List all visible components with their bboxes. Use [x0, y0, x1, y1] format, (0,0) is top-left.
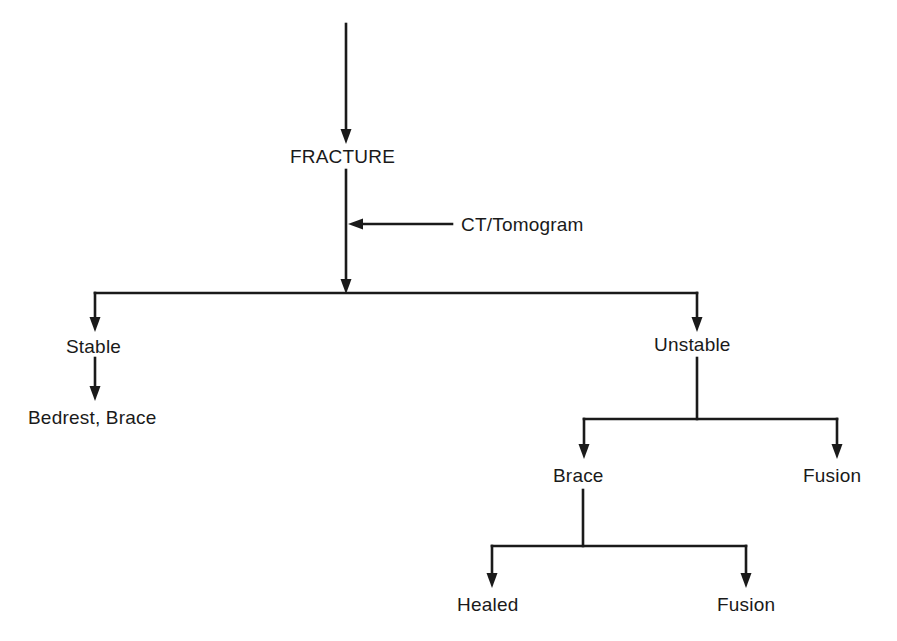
node-unstable: Unstable: [654, 334, 731, 356]
flowchart-connectors: [0, 0, 897, 641]
node-fusion-1: Fusion: [803, 465, 861, 487]
node-fracture: FRACTURE: [290, 146, 395, 168]
node-brace: Brace: [553, 465, 604, 487]
arrowhead-down-icon: [579, 444, 590, 459]
node-bedrest-brace: Bedrest, Brace: [28, 407, 156, 429]
arrowhead-left-icon: [348, 219, 363, 230]
node-healed: Healed: [457, 594, 518, 616]
node-fusion-2: Fusion: [717, 594, 775, 616]
arrowhead-down-icon: [341, 129, 352, 144]
arrowhead-down-icon: [741, 573, 752, 588]
node-stable: Stable: [66, 336, 121, 358]
node-ct-tomogram: CT/Tomogram: [461, 214, 584, 236]
arrowhead-down-icon: [832, 444, 843, 459]
arrowhead-down-icon: [90, 317, 101, 332]
arrowhead-down-icon: [692, 317, 703, 332]
arrowhead-down-icon: [90, 386, 101, 401]
arrowhead-down-icon: [487, 573, 498, 588]
